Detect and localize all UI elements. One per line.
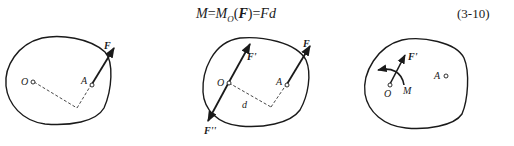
dashed-distance-d xyxy=(229,83,271,107)
label-m: M xyxy=(402,85,412,96)
label-o: O xyxy=(217,77,224,88)
label-o: O xyxy=(21,76,28,87)
label-a: A xyxy=(80,75,88,86)
label-f: F xyxy=(103,40,111,51)
label-a: A xyxy=(275,76,283,87)
point-o xyxy=(31,80,35,84)
label-f: F xyxy=(302,38,310,49)
point-a xyxy=(444,74,448,78)
label-f-double-prime: F'' xyxy=(203,125,216,136)
label-a: A xyxy=(433,70,441,81)
figure-c: O A M F' xyxy=(365,39,468,129)
label-o: O xyxy=(384,88,391,99)
diagram-canvas: O A F O A d F' F'' F O A M F' xyxy=(0,0,514,146)
label-f-prime: F' xyxy=(407,51,418,62)
point-a xyxy=(285,83,289,87)
point-o xyxy=(388,83,392,87)
figure-a: O A F xyxy=(6,37,114,125)
point-o xyxy=(227,81,231,85)
label-f-prime: F' xyxy=(246,51,257,62)
dashed-perpendicular-a xyxy=(77,85,91,108)
label-d: d xyxy=(242,99,248,110)
point-a xyxy=(90,83,94,87)
dashed-perpendicular-a xyxy=(271,85,286,107)
dashed-perpendicular-oa xyxy=(34,82,77,108)
figure-b: O A d F' F'' F xyxy=(203,38,310,136)
force-arrow-f-prime xyxy=(229,44,250,82)
